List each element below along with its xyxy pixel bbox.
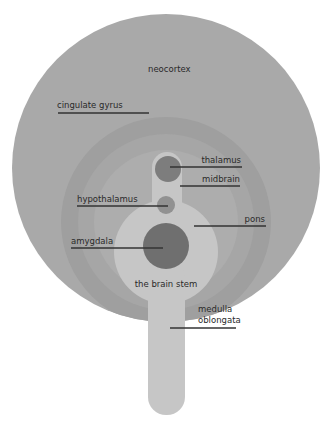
label-hypothalamus: hypothalamus: [77, 194, 138, 204]
label-medulla-line2: oblongata: [198, 315, 241, 325]
hypothalamus-circle: [157, 196, 175, 214]
label-medulla-line1: medulla: [198, 304, 232, 314]
thalamus-circle: [155, 156, 181, 182]
label-amygdala: amygdala: [71, 236, 113, 246]
brain-diagram: neocortex cingulate gyrus thalamus midbr…: [0, 0, 331, 425]
label-thalamus: thalamus: [201, 155, 241, 165]
label-pons: pons: [245, 214, 266, 224]
label-cingulate-gyrus: cingulate gyrus: [57, 100, 123, 110]
label-midbrain: midbrain: [202, 174, 240, 184]
label-neocortex: neocortex: [148, 64, 191, 74]
label-brain-stem: the brain stem: [135, 279, 197, 289]
amygdala-circle: [143, 223, 189, 269]
